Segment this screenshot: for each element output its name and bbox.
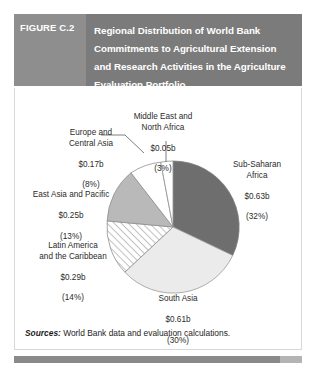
figure-card: FIGURE C.2 Regional Distribution of Worl…	[0, 0, 314, 377]
pie-label-name: South Asia	[131, 294, 225, 304]
pie-label-value: $0.61b	[131, 315, 225, 325]
sources-label: Sources:	[25, 328, 61, 338]
pie-label-value: $0.29b	[17, 273, 129, 283]
pie-label-name: Latin America and the Caribbean	[17, 241, 129, 262]
figure-body-panel: Middle East and North Africa $0.05b (3%)…	[14, 88, 302, 350]
pie-label-value: $0.25b	[17, 211, 125, 221]
pie-label-name: Europe and Central Asia	[53, 128, 129, 149]
figure-title-cell: Regional Distribution of World Bank Comm…	[86, 14, 302, 86]
figure-number-cell: FIGURE C.2	[14, 14, 86, 86]
pie-label-value: $0.63b	[215, 192, 299, 202]
figure-number-label: FIGURE C.2	[20, 22, 74, 33]
figure-title: Regional Distribution of World Bank Comm…	[94, 25, 286, 90]
pie-label-sub-saharan-africa: Sub-Saharan Africa $0.63b (32%)	[215, 150, 299, 233]
pie-label-south-asia: South Asia $0.61b (30%)	[131, 284, 225, 350]
figure-header: FIGURE C.2 Regional Distribution of Worl…	[14, 14, 302, 86]
bottom-rule	[14, 356, 302, 363]
bottom-rule-tail	[280, 356, 302, 363]
sources-line: Sources: World Bank data and evaluation …	[25, 328, 295, 339]
sources-text: World Bank data and evaluation calculati…	[61, 328, 230, 338]
pie-chart: Middle East and North Africa $0.05b (3%)…	[15, 88, 301, 324]
pie-label-percent: (32%)	[215, 212, 299, 222]
pie-label-value: $0.17b	[53, 160, 129, 170]
pie-label-name: East Asia and Pacific	[17, 190, 125, 200]
pie-label-percent: (14%)	[17, 293, 129, 303]
pie-label-latin-america-caribbean: Latin America and the Caribbean $0.29b (…	[17, 231, 129, 314]
pie-label-name: Sub-Saharan Africa	[215, 160, 299, 181]
